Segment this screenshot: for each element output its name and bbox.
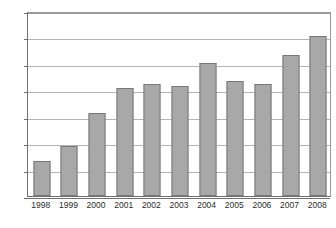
bar-slot [83, 13, 111, 196]
bar [199, 63, 216, 196]
bar-slot [139, 13, 167, 196]
gridline [28, 198, 330, 199]
bar [310, 36, 327, 196]
bar-slot [277, 13, 305, 196]
x-axis-tick-label: 2003 [165, 201, 193, 210]
bar [282, 55, 299, 196]
plot-area [27, 12, 331, 197]
x-axis-tick-label: 2005 [220, 201, 248, 210]
x-axis-tick-label: 1998 [27, 201, 55, 210]
bar-slot [249, 13, 277, 196]
bar-slot [166, 13, 194, 196]
x-axis-tick-label: 2001 [110, 201, 138, 210]
bar-slot [56, 13, 84, 196]
bar-slot [194, 13, 222, 196]
bar-slot [111, 13, 139, 196]
x-axis-tick-label: 2007 [276, 201, 304, 210]
bar-chart: 0100200300400500600700 19981999200020012… [0, 0, 336, 228]
bar [254, 84, 271, 196]
bar [89, 113, 106, 196]
bar [33, 161, 50, 196]
y-axis-tickmark [24, 198, 28, 199]
x-axis-tick-label: 1999 [55, 201, 83, 210]
bar [116, 88, 133, 196]
bars-layer [28, 13, 330, 196]
x-axis-tick-label: 2004 [193, 201, 221, 210]
x-axis-tick-label: 2008 [303, 201, 331, 210]
bar-slot [304, 13, 332, 196]
x-axis-tick-label: 2000 [82, 201, 110, 210]
bar [171, 86, 188, 196]
bar-slot [221, 13, 249, 196]
x-axis-tick-label: 2002 [138, 201, 166, 210]
bar-slot [28, 13, 56, 196]
bar [144, 84, 161, 196]
x-axis-tick-label: 2006 [248, 201, 276, 210]
bar [61, 146, 78, 196]
bar [227, 81, 244, 196]
